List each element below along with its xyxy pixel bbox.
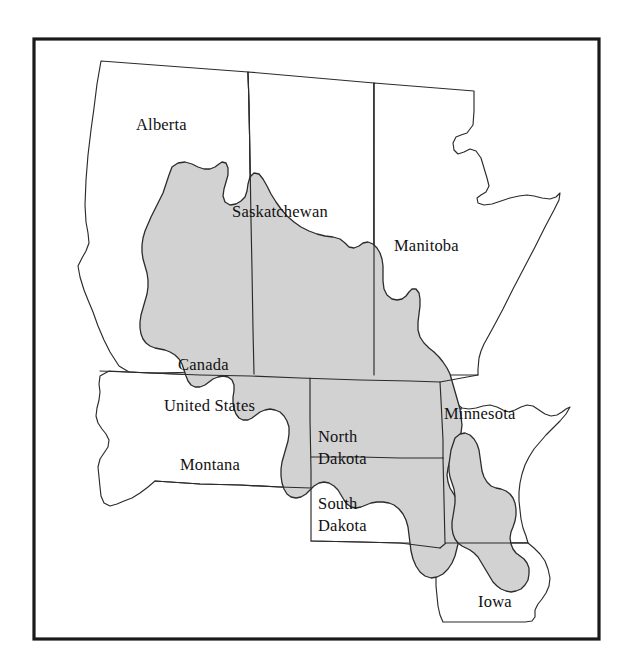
label-north-dakota-line-1: North [318, 427, 358, 446]
label-canada: Canada [178, 355, 229, 374]
label-saskatchewan: Saskatchewan [232, 202, 328, 221]
label-montana: Montana [180, 455, 241, 474]
map-canvas: Alberta Saskatchewan Manitoba Canada Uni… [0, 0, 628, 672]
label-manitoba: Manitoba [394, 236, 459, 255]
label-minnesota: Minnesota [444, 404, 516, 423]
label-alberta: Alberta [136, 115, 187, 134]
label-iowa: Iowa [478, 592, 512, 611]
map-figure: Alberta Saskatchewan Manitoba Canada Uni… [0, 0, 628, 672]
label-south-dakota-line-1: South [318, 494, 358, 513]
label-united-states: United States [164, 396, 255, 415]
label-south-dakota-line-2: Dakota [318, 516, 367, 535]
label-north-dakota-line-2: Dakota [318, 449, 367, 468]
